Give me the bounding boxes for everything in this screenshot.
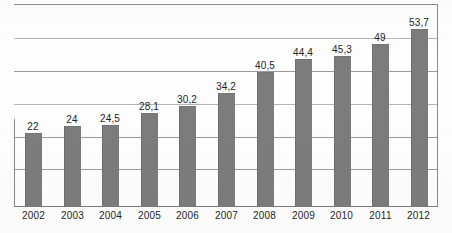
x-tick-label-2010: 2010: [322, 210, 361, 221]
bar[interactable]: [411, 29, 428, 206]
x-tick-label-2008: 2008: [245, 210, 284, 221]
bar-value-label: 44,4: [293, 47, 313, 58]
bar[interactable]: [295, 59, 312, 206]
bar[interactable]: [372, 44, 389, 206]
bar[interactable]: [102, 125, 119, 206]
bar[interactable]: [141, 113, 158, 206]
bar-value-label: 53,7: [409, 17, 429, 28]
x-tick-label-2002: 2002: [14, 210, 53, 221]
bar[interactable]: [218, 93, 235, 206]
bar[interactable]: [257, 72, 274, 206]
bar[interactable]: [64, 126, 81, 206]
bar[interactable]: [25, 133, 42, 206]
x-tick-label-2003: 2003: [53, 210, 92, 221]
bar-value-label: 30,2: [177, 94, 197, 105]
x-tick-label-2009: 2009: [284, 210, 323, 221]
bar-value-label: 45,3: [332, 44, 352, 55]
x-tick-label-2004: 2004: [91, 210, 130, 221]
x-tick-label-2006: 2006: [168, 210, 207, 221]
bar-chart: 222424,528,130,234,240,544,445,34953,7 2…: [0, 0, 452, 233]
x-tick-label-2005: 2005: [130, 210, 169, 221]
bars-layer: 222424,528,130,234,240,544,445,34953,7: [14, 4, 438, 207]
bar-value-label: 28,1: [139, 101, 159, 112]
bar[interactable]: [179, 106, 196, 206]
x-tick-label-2011: 2011: [361, 210, 400, 221]
x-axis-labels: 2002200320042005200620072008200920102011…: [14, 210, 438, 228]
bar-value-label: 24: [66, 114, 77, 125]
bar-value-label: 49: [374, 32, 385, 43]
bar-value-label: 22: [27, 121, 38, 132]
x-tick-label-2007: 2007: [207, 210, 246, 221]
bar[interactable]: [334, 56, 351, 206]
x-tick-label-2012: 2012: [399, 210, 438, 221]
bar-value-label: 34,2: [216, 81, 236, 92]
plot-area: 222424,528,130,234,240,544,445,34953,7: [14, 4, 438, 207]
bar-value-label: 40,5: [255, 60, 275, 71]
bar-value-label: 24,5: [100, 113, 120, 124]
